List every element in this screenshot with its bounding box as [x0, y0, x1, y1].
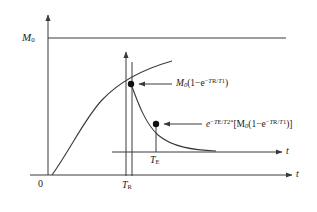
figure-canvas: M0 0 TR TE t t M0(1−e−TR/T1) e−TE/T2*[M0…	[0, 0, 317, 212]
annotation-recovery-value: M0(1−e−TR/T1)	[176, 78, 228, 89]
origin-label: 0	[38, 179, 43, 189]
tr-data-point	[128, 81, 134, 87]
tick-label-te: TE	[150, 155, 160, 166]
secondary-t-axis-label: t	[286, 146, 289, 156]
t2-decay-curve	[131, 84, 216, 151]
tick-label-tr: TR	[122, 180, 132, 191]
diagram-svg	[0, 0, 317, 212]
te-data-point	[153, 121, 159, 127]
main-t-axis-label: t	[296, 169, 299, 179]
annotation-echo-value: e−TE/T2*[M0(1−e−TR/T1)]	[206, 119, 292, 130]
m0-axis-label: M0	[22, 32, 35, 44]
